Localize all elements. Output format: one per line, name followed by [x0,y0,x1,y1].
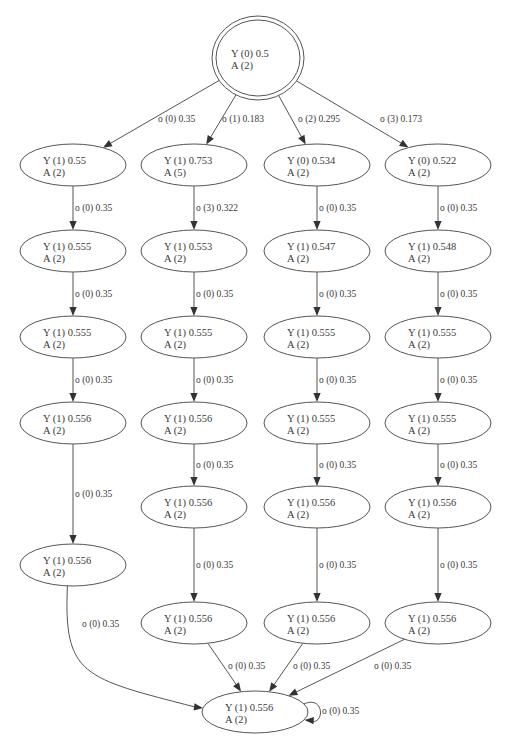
state-node[interactable]: Y (1) 0.753A (5) [141,144,247,186]
transition-edge[interactable]: o (0) 0.35 [313,528,356,602]
arrowhead-icon [103,140,113,148]
node-action-label: A (2) [164,339,186,351]
transition-edge[interactable]: o (0) 0.35 [208,643,266,691]
node-action-label: A (2) [408,167,430,179]
transition-edge[interactable]: o (1) 0.183 [206,95,264,145]
transition-edge[interactable]: o (0) 0.35 [313,186,356,230]
edge-label: o (0) 0.35 [75,289,112,300]
edge-label: o (0) 0.35 [228,661,265,672]
transition-edge[interactable]: o (2) 0.295 [279,96,341,145]
node-action-label: A (2) [164,253,186,265]
transition-edge[interactable]: o (0) 0.35 [69,272,112,316]
edge-label: o (0) 0.35 [196,375,233,386]
node-value-label: Y (1) 0.556 [43,555,91,567]
state-node[interactable]: Y (0) 0.534A (2) [264,144,370,186]
transition-edge[interactable]: o (0) 0.35 [434,358,477,402]
node-action-label: A (2) [43,253,65,265]
edge-label: o (0) 0.35 [196,460,233,471]
node-action-label: A (2) [408,339,430,351]
transition-edge[interactable]: o (0) 0.35 [69,358,112,402]
arrowhead-icon [69,307,76,316]
transition-edge[interactable]: o (0) 0.35 [190,444,233,486]
transition-edge[interactable]: o (0) 0.35 [190,358,233,402]
state-node[interactable]: Y (1) 0.555A (2) [264,402,370,444]
arrowhead-icon [206,135,214,145]
edge-label: o (0) 0.35 [158,114,195,125]
state-node[interactable]: Y (1) 0.555A (2) [264,316,370,358]
node-value-label: Y (1) 0.753 [164,155,212,167]
node-action-label: A (2) [164,425,186,437]
edge-label: o (0) 0.35 [319,560,356,571]
state-node[interactable]: Y (1) 0.547A (2) [264,230,370,272]
arrowhead-icon [69,393,76,402]
transition-edge[interactable]: o (0) 0.35 [190,272,233,316]
state-node[interactable]: Y (1) 0.555A (2) [20,230,126,272]
state-node[interactable]: Y (1) 0.556A (2) [141,486,247,528]
state-node[interactable]: Y (1) 0.556A (2) [385,486,491,528]
state-node[interactable]: Y (1) 0.556A (2) [20,402,126,444]
node-value-label: Y (1) 0.556 [164,413,212,425]
arrowhead-icon [269,682,277,691]
state-node[interactable]: Y (1) 0.556A (2) [264,602,370,644]
state-node[interactable]: Y (1) 0.555A (2) [385,316,491,358]
edge-label: o (0) 0.35 [196,289,233,300]
node-value-label: Y (1) 0.556 [225,702,273,714]
edge-label: o (0) 0.35 [440,560,477,571]
edge-label: o (0) 0.35 [293,661,330,672]
node-action-label: A (2) [408,425,430,437]
transition-edge[interactable]: o (0) 0.35 [313,444,356,486]
edge-label: o (0) 0.35 [319,375,356,386]
transition-edge[interactable]: o (0) 0.35 [269,643,330,692]
arrowhead-icon [69,221,76,230]
node-action-label: A (2) [43,425,65,437]
state-node[interactable]: Y (1) 0.556A (2) [202,691,308,733]
transition-edge[interactable]: o (0) 0.35 [434,444,477,486]
edge-label: o (0) 0.35 [440,375,477,386]
state-node[interactable]: Y (1) 0.556A (2) [385,602,491,644]
transition-edge[interactable]: o (0) 0.35 [313,358,356,402]
state-node[interactable]: Y (1) 0.553A (2) [141,230,247,272]
arrowhead-icon [434,221,441,230]
arrowhead-icon [434,593,441,602]
transition-edge[interactable]: o (0) 0.35 [69,444,112,544]
state-node[interactable]: Y (1) 0.556A (2) [264,486,370,528]
state-node[interactable]: Y (1) 0.555A (2) [20,316,126,358]
state-node[interactable]: Y (1) 0.556A (2) [141,402,247,444]
node-action-label: A (5) [164,167,186,179]
arrowhead-icon [190,393,197,402]
initial-state-node[interactable]: Y (0) 0.5A (2) [212,16,304,100]
transition-edge[interactable]: o (0) 0.35 [313,272,356,316]
edge-label: o (0) 0.35 [75,375,112,386]
arrowhead-icon [298,135,305,145]
node-value-label: Y (0) 0.5 [231,48,269,60]
node-value-label: Y (1) 0.556 [287,497,335,509]
arrowhead-icon [190,307,197,316]
transition-edge[interactable]: o (0) 0.35 [434,186,477,230]
state-node[interactable]: Y (0) 0.522A (2) [385,144,491,186]
transition-edge[interactable]: o (0) 0.35 [434,272,477,316]
node-value-label: Y (1) 0.553 [164,241,212,253]
edge-label: o (1) 0.183 [222,114,264,125]
arrowhead-icon [434,477,441,486]
transition-edge[interactable]: o (0) 0.35 [190,528,233,602]
transition-edge[interactable]: o (0) 0.35 [69,186,112,230]
state-node[interactable]: Y (1) 0.556A (2) [141,602,247,644]
state-node[interactable]: Y (1) 0.556A (2) [20,544,126,586]
transition-edge[interactable]: o (0) 0.35 [103,80,219,147]
state-node[interactable]: Y (1) 0.548A (2) [385,230,491,272]
transition-edge[interactable]: o (3) 0.322 [190,186,238,230]
node-action-label: A (2) [164,509,186,521]
state-node[interactable]: Y (1) 0.55A (2) [20,144,126,186]
transition-edge[interactable]: o (0) 0.35 [304,702,360,724]
arrowhead-icon [313,477,320,486]
node-action-label: A (2) [408,625,430,637]
state-node[interactable]: Y (1) 0.555A (2) [141,316,247,358]
arrowhead-icon [190,593,197,602]
arrowhead-icon [313,221,320,230]
node-action-label: A (2) [287,339,309,351]
arrowhead-icon [313,593,320,602]
arrowhead-icon [288,689,298,696]
state-node[interactable]: Y (1) 0.555A (2) [385,402,491,444]
node-value-label: Y (1) 0.555 [408,413,456,425]
transition-edge[interactable]: o (0) 0.35 [434,528,477,602]
